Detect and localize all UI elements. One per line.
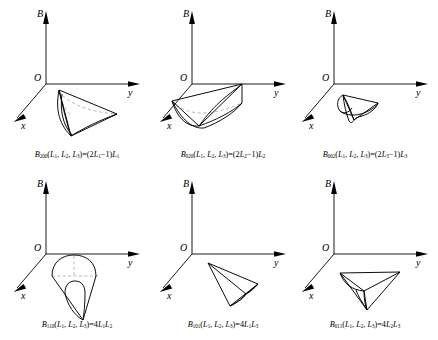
origin-label: O: [322, 242, 329, 253]
axis-triad: [17, 16, 135, 118]
bernstein-basis-figure: B y x O B200(L1, L2, L3)=(2L1−1)L1: [0, 0, 438, 340]
y-axis-label: y: [415, 257, 421, 268]
y-axis-label: y: [127, 87, 133, 98]
panel-b110: B y x O B110(L1, L2, L3)=4L1: [4, 172, 150, 340]
x-axis-label: x: [166, 120, 172, 131]
b-axis-label: B: [37, 178, 43, 189]
b-axis-label: B: [183, 8, 189, 19]
b-axis-arrowhead: [43, 181, 49, 194]
b-axis-arrowhead: [189, 181, 195, 194]
surface-wireframe: [340, 272, 400, 310]
y-axis-arrowhead: [128, 81, 140, 87]
plot-b011: B y x O: [292, 172, 438, 322]
panel-b002: B y x O B002(L1, L2, L3)=(2L3−1)L3: [292, 2, 438, 172]
y-axis-label: y: [273, 87, 279, 98]
x-axis-line: [17, 84, 46, 118]
caption-b020: B020(L1, L2, L3)=(2L2−1)L2: [150, 150, 296, 160]
b-axis-arrowhead: [43, 11, 49, 24]
surface-wireframe: [52, 255, 96, 320]
y-axis-arrowhead: [274, 81, 286, 87]
caption-b101: B101(L1, L2, L3)=4L1L3: [150, 320, 296, 330]
y-axis-arrowhead: [274, 251, 286, 257]
b-axis-label: B: [37, 8, 43, 19]
panel-b101: B y x O B101(L1, L2, L3)=4L1L3: [150, 172, 296, 340]
b-axis-arrowhead: [189, 11, 195, 24]
x-axis-line: [163, 254, 192, 288]
panel-b020: B y x O B020(L1, L2, L3)=(2L2−1)L2: [150, 2, 296, 172]
caption-b011: B011(L1, L2, L3)=4L2L3: [292, 320, 438, 330]
x-axis-line: [17, 254, 46, 288]
axis-triad: [163, 16, 281, 118]
x-axis-label: x: [20, 290, 26, 301]
b-axis-label: B: [325, 178, 331, 189]
y-axis-label: y: [415, 87, 421, 98]
x-axis-label: x: [20, 120, 26, 131]
b-axis-label: B: [325, 8, 331, 19]
plot-b002: B y x O: [292, 2, 438, 152]
caption-b110: B110(L1, L2, L3)=4L1L2: [4, 320, 150, 330]
x-axis-label: x: [308, 290, 314, 301]
y-axis-arrowhead: [416, 251, 428, 257]
caption-b200: B200(L1, L2, L3)=(2L1−1)L1: [4, 150, 150, 160]
surface-wireframe: [338, 95, 378, 123]
x-axis-line: [305, 254, 334, 288]
caption-b002: B002(L1, L2, L3)=(2L3−1)L3: [292, 150, 438, 160]
x-axis-label: x: [166, 290, 172, 301]
hidden-edges: [59, 91, 117, 116]
panel-b200: B y x O B200(L1, L2, L3)=(2L1−1)L1: [4, 2, 150, 172]
hidden-edges: [52, 256, 98, 276]
y-axis-arrowhead: [128, 251, 140, 257]
b-axis-arrowhead: [331, 11, 337, 24]
x-axis-line: [305, 84, 334, 118]
origin-label: O: [34, 242, 41, 253]
axis-triad: [17, 186, 135, 288]
plot-b101: B y x O: [150, 172, 296, 322]
origin-label: O: [180, 72, 187, 83]
x-axis-label: x: [308, 120, 314, 131]
y-axis-label: y: [273, 257, 279, 268]
surface-wireframe: [172, 84, 242, 128]
surface-wireframe: [208, 263, 258, 306]
panel-b011: B y x O B011(L1, L2, L3)=4L2L3: [292, 172, 438, 340]
y-axis-arrowhead: [416, 81, 428, 87]
plot-b110: B y x O: [4, 172, 150, 322]
origin-label: O: [34, 72, 41, 83]
axis-triad: [163, 186, 281, 288]
origin-label: O: [322, 72, 329, 83]
axis-triad: [305, 16, 423, 118]
y-axis-label: y: [127, 257, 133, 268]
plot-b200: B y x O: [4, 2, 150, 152]
b-axis-arrowhead: [331, 181, 337, 194]
plot-b020: B y x O: [150, 2, 296, 152]
origin-label: O: [180, 242, 187, 253]
b-axis-label: B: [183, 178, 189, 189]
